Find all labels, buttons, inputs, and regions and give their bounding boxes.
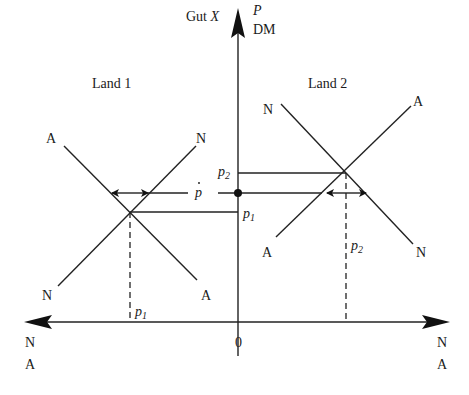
land2-price-dashed-label: p2	[350, 238, 363, 255]
x-axis-left-label-a: A	[25, 357, 36, 372]
land1-label-N-top: N	[196, 131, 206, 146]
origin-label: 0	[235, 335, 242, 350]
y-axis-label-currency: DM	[253, 22, 276, 37]
land1-price-xaxis-label: p1	[134, 304, 147, 321]
land1-label-A-bottom: A	[201, 288, 212, 303]
land2-title: Land 2	[308, 76, 347, 91]
land2-panel: Land 2 N A A N p2 p2	[217, 76, 426, 322]
x-axis-right-label-a: A	[437, 357, 448, 372]
land1-title: Land 1	[92, 76, 131, 91]
y-axis-label-price: P	[252, 3, 262, 18]
axes	[24, 8, 450, 356]
land2-label-N-bottom: N	[416, 245, 426, 260]
x-axis-left-label-n: N	[25, 335, 35, 350]
land2-demand-curve-N	[281, 104, 413, 244]
land2-label-A-bottom: A	[262, 245, 273, 260]
world-price-dot	[198, 182, 200, 184]
land2-price-yaxis-label: p2	[217, 164, 230, 181]
land2-supply-curve-A	[276, 106, 411, 237]
land2-label-N-top: N	[263, 102, 273, 117]
land1-label-N-bottom: N	[42, 288, 52, 303]
land1-demand-curve-N	[58, 146, 196, 286]
y-axis-label-good: Gut X	[186, 9, 220, 24]
trade-equilibrium-diagram: Gut X P DM N A N A 0 Land 1 A N N A p1 p…	[0, 0, 469, 395]
land1-label-A-top: A	[46, 131, 57, 146]
land1-price-yaxis-label: p1	[242, 206, 255, 223]
world-price: p	[148, 182, 322, 200]
equilibrium-point	[234, 189, 242, 197]
land2-label-A-top: A	[413, 94, 424, 109]
land1-panel: Land 1 A N N A p1 p1	[42, 76, 255, 322]
x-axis-right-label-n: N	[437, 335, 447, 350]
world-price-label: p	[194, 185, 202, 200]
